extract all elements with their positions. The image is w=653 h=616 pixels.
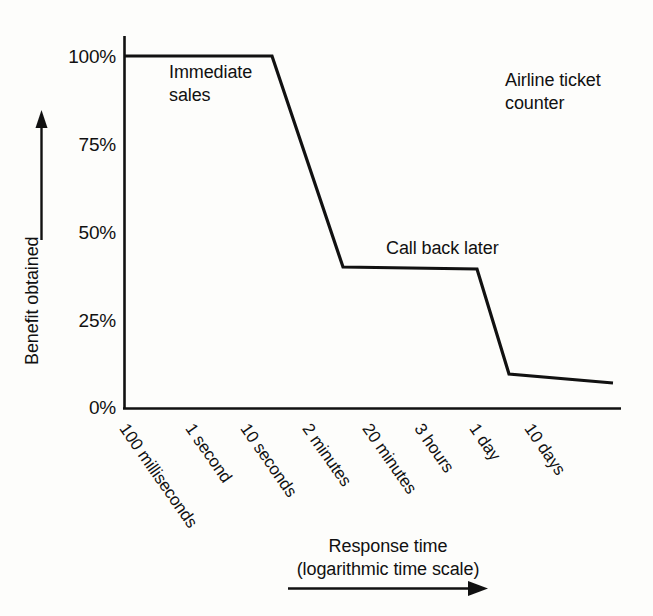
- chart-figure: 100% 75% 50% 25% 0% Benefit obtained 100…: [0, 0, 653, 616]
- x-axis-title-line2: (logarithmic time scale): [238, 559, 538, 581]
- y-tick-label-75: 75%: [42, 133, 116, 156]
- y-tick-label-0: 0%: [42, 396, 116, 419]
- x-axis-arrow: [288, 581, 488, 596]
- annotation-airline-ticket-counter-line1: Airline ticket: [505, 70, 601, 92]
- annotation-airline-ticket-counter-line2: counter: [505, 93, 564, 115]
- x-axis-title-line1: Response time: [238, 536, 538, 558]
- y-tick-label-100: 100%: [42, 45, 116, 68]
- y-axis-title: Benefit obtained: [22, 236, 44, 365]
- y-tick-label-50: 50%: [42, 221, 116, 244]
- annotation-immediate-sales-line2: sales: [169, 85, 211, 107]
- annotation-call-back-later: Call back later: [386, 238, 499, 260]
- y-tick-label-25: 25%: [42, 309, 116, 332]
- annotation-immediate-sales-line1: Immediate: [169, 62, 252, 84]
